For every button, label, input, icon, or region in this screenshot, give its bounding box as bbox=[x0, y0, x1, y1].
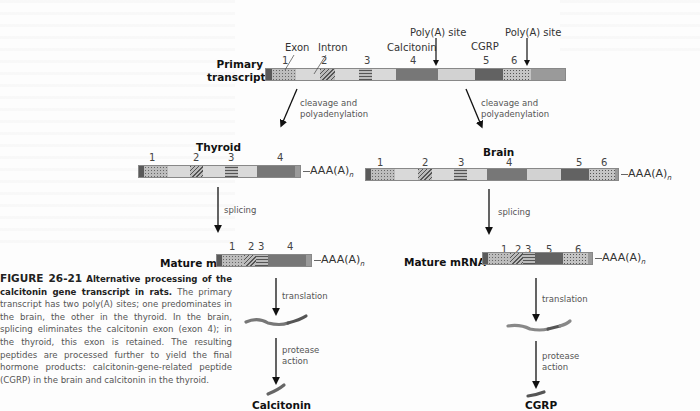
exon-pointer-line bbox=[285, 55, 294, 70]
cleavage-arrow-left bbox=[282, 89, 297, 124]
figure-caption: FIGURE 26-21 Alternative processing of t… bbox=[0, 272, 232, 386]
cleavage-arrow-right bbox=[466, 89, 481, 125]
calcitonin-peptide bbox=[268, 385, 284, 394]
cgrp-peptide bbox=[528, 392, 544, 396]
figure-caption-body: The primary transcript has two poly(A) s… bbox=[0, 287, 232, 385]
calcitonin-precursor-peptide bbox=[246, 316, 306, 325]
intron-pointer-line bbox=[314, 55, 326, 74]
cgrp-precursor-peptide bbox=[508, 321, 570, 330]
figure-number: FIGURE 26-21 bbox=[0, 272, 82, 284]
